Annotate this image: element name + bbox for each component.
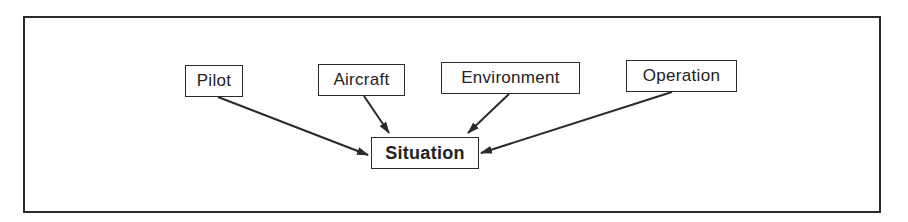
node-aircraft-label: Aircraft <box>333 70 389 90</box>
arrow-environment-to-situation <box>468 94 509 133</box>
node-aircraft: Aircraft <box>318 64 405 96</box>
arrow-pilot-to-situation <box>218 97 368 155</box>
node-situation: Situation <box>371 137 479 169</box>
node-pilot: Pilot <box>185 65 243 97</box>
node-operation-label: Operation <box>643 66 720 86</box>
node-environment-label: Environment <box>461 68 560 88</box>
arrows-layer <box>0 0 908 222</box>
node-operation: Operation <box>626 60 737 92</box>
arrow-operation-to-situation <box>481 92 672 153</box>
node-pilot-label: Pilot <box>197 71 232 91</box>
arrow-aircraft-to-situation <box>364 96 389 133</box>
node-situation-label: Situation <box>385 143 465 164</box>
node-environment: Environment <box>441 62 580 94</box>
